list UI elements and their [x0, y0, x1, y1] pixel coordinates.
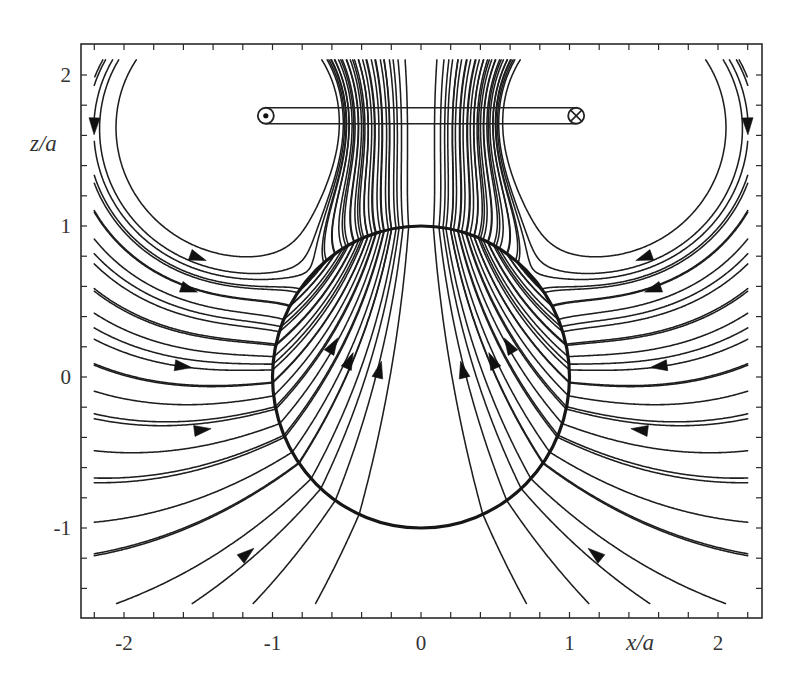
arrow-icon [324, 338, 337, 355]
x-tick-label: -1 [264, 631, 282, 655]
arrow-icon [89, 118, 100, 135]
arrow-icon [631, 426, 649, 437]
field-line [495, 60, 747, 293]
field-direction-arrows [89, 118, 753, 564]
arrow-icon [194, 426, 212, 437]
z-tick-label: -1 [54, 516, 72, 540]
sphere-outline [273, 226, 570, 528]
arrow-icon [650, 360, 668, 371]
arrow-icon [504, 338, 517, 355]
arrow-icon [459, 361, 470, 379]
current-loop [258, 108, 584, 124]
field-line [94, 60, 349, 306]
arrow-icon [180, 282, 198, 293]
field-line [116, 60, 339, 257]
field-line [493, 60, 748, 306]
arrow-icon [742, 118, 753, 135]
z-tick-label: 0 [61, 365, 72, 389]
field-line [503, 60, 726, 257]
x-tick-label: 2 [713, 631, 724, 655]
z-tick-label: 2 [61, 63, 72, 87]
axis-labels: x/a z/a -2-1012210-1 [29, 63, 723, 655]
field-line [497, 60, 747, 280]
x-axis-label: x/a [625, 630, 654, 655]
sphere [273, 226, 570, 528]
dot-icon [263, 113, 268, 118]
field-line [94, 60, 346, 293]
arrow-icon [645, 282, 663, 293]
z-axis-label: z/a [29, 131, 57, 156]
arrow-icon [372, 361, 383, 379]
x-tick-label: -2 [115, 631, 133, 655]
arrow-icon [636, 250, 654, 261]
field-line [94, 60, 354, 327]
field-line [94, 60, 344, 280]
field-line-diagram: x/a z/a -2-1012210-1 [0, 0, 806, 685]
x-tick-label: 1 [564, 631, 575, 655]
z-tick-label: 1 [61, 214, 72, 238]
x-tick-label: 0 [416, 631, 427, 655]
field-line [488, 60, 748, 327]
field-line [493, 60, 748, 306]
field-line [94, 60, 349, 306]
arrow-icon [174, 360, 192, 371]
field-lines [94, 60, 747, 604]
arrow-icon [237, 548, 254, 563]
arrow-icon [188, 250, 206, 261]
arrow-icon [588, 548, 605, 563]
